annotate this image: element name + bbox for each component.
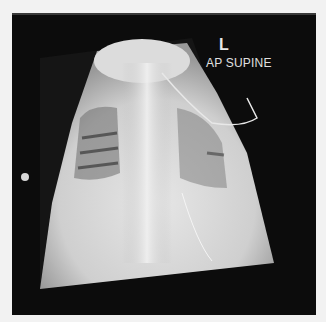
xray-image: L AP SUPINE [12,13,316,315]
side-marker: L [219,37,229,53]
projection-label: AP SUPINE [206,57,272,70]
